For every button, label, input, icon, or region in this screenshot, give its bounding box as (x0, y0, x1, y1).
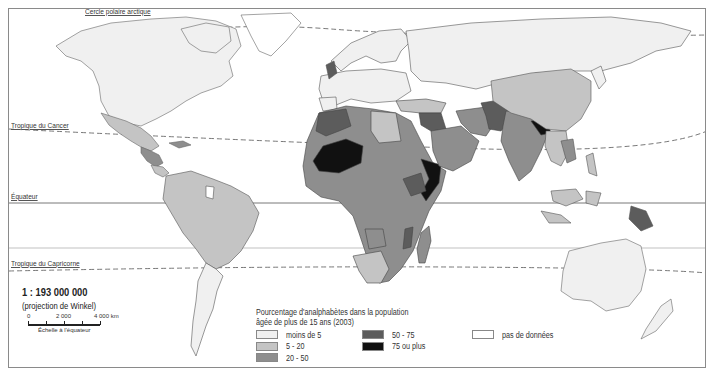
legend-label: moins de 5 (286, 330, 321, 340)
legend-title-line1: Pourcentage d'analphabètes dans la popul… (256, 307, 408, 317)
arctic-circle-label: Cercle polaire arctique (85, 8, 151, 16)
legend-label: 75 ou plus (392, 341, 425, 351)
europe (319, 29, 411, 111)
legend-title-line2: âgée de plus de 15 ans (2003) (256, 317, 408, 327)
scale-tick-2000: 2 000 (56, 313, 71, 319)
legend-swatch (472, 330, 494, 339)
south-america (163, 171, 259, 356)
legend-label: 5 - 20 (286, 341, 304, 351)
new-zealand (641, 299, 673, 339)
legend-item: 20 - 50 (256, 352, 328, 363)
legend-title: Pourcentage d'analphabètes dans la popul… (256, 307, 408, 327)
legend-item: moins de 5 (256, 329, 328, 340)
scale-tick-mark (64, 321, 65, 325)
legend-column-3: pas de données (472, 329, 563, 341)
legend-swatch (256, 353, 278, 362)
tropic-capricorn-label: Tropique du Capricorne (11, 259, 80, 268)
legend-item: 75 ou plus (362, 341, 431, 352)
legend-swatch (256, 330, 278, 339)
north-america (56, 17, 241, 177)
australia (561, 239, 646, 311)
legend-label: pas de données (502, 330, 553, 340)
legend-swatch (362, 330, 384, 339)
scale-tick-0: 0 (27, 313, 30, 319)
legend-swatch (256, 342, 278, 351)
tropic-cancer-label: Tropique du Cancer (11, 121, 69, 130)
equator-label: Équateur (11, 192, 38, 201)
scale-tick-mark (100, 321, 101, 325)
legend-item: pas de données (472, 329, 563, 340)
legend-swatch (362, 342, 384, 351)
legend-item: 50 - 75 (362, 329, 431, 340)
scale-block: 1 : 193 000 000 (projection de Winkel) 0… (22, 286, 132, 335)
scale-tick-mark (82, 321, 83, 325)
legend: Pourcentage d'analphabètes dans la popul… (256, 307, 435, 327)
scale-bar: 0 2 000 4 000 km Échelle à l'équateur (22, 313, 132, 335)
scale-ratio: 1 : 193 000 000 (22, 286, 116, 298)
scale-caption: Échelle à l'équateur (38, 327, 91, 333)
legend-column-1: moins de 5 5 - 20 20 - 50 (256, 329, 328, 364)
scale-tick-mark (46, 321, 47, 325)
scale-tick-4000: 4 000 km (94, 313, 119, 319)
projection-label: (projection de Winkel) (22, 301, 116, 311)
legend-label: 50 - 75 (392, 330, 414, 340)
greenland (241, 13, 301, 56)
legend-item: 5 - 20 (256, 341, 328, 352)
legend-label: 20 - 50 (286, 353, 308, 363)
scale-tick-mark (28, 321, 29, 325)
legend-column-2: 50 - 75 75 ou plus (362, 329, 431, 352)
